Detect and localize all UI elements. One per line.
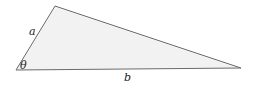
triangle-diagram: a θ b bbox=[0, 0, 253, 86]
side-b-label: b bbox=[124, 71, 131, 84]
triangle-shape bbox=[16, 6, 241, 70]
angle-theta-label: θ bbox=[20, 59, 27, 72]
side-a-label: a bbox=[29, 25, 36, 38]
